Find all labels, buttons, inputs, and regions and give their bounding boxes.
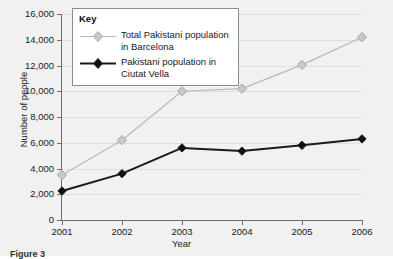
data-point — [298, 141, 306, 149]
legend-swatch-dark-diamond — [79, 56, 117, 69]
data-point — [238, 147, 246, 155]
legend-label-line2: in Barcelona — [121, 41, 174, 52]
figure-caption-label: Figure 3 — [10, 249, 45, 259]
figure-caption: Figure 3 — [10, 249, 45, 259]
legend-key-box: Key Total Pakistani population in Barcel… — [72, 8, 239, 86]
legend-label-line1: Pakistani population in — [121, 56, 216, 67]
data-point — [357, 33, 366, 42]
data-point — [358, 135, 366, 143]
legend-item-ciutat-vella: Pakistani population in Ciutat Vella — [79, 56, 232, 79]
legend-title: Key — [79, 14, 232, 24]
x-axis-title: Year — [172, 238, 191, 249]
legend-label-line1: Total Pakistani population — [121, 29, 229, 40]
data-point — [178, 144, 186, 152]
data-point — [57, 170, 66, 179]
legend-label-ciutat-vella: Pakistani population in Ciutat Vella — [121, 56, 216, 79]
line-chart: 16,000 14,000 12,000 10,000 8,000 6,000 … — [0, 0, 393, 236]
data-point — [58, 187, 66, 195]
legend-label-line2: Ciutat Vella — [121, 68, 169, 79]
data-point — [297, 60, 306, 69]
line-series-ciutat-vella — [62, 139, 362, 191]
legend-swatch-light-diamond — [79, 29, 117, 42]
legend-item-total-barcelona: Total Pakistani population in Barcelona — [79, 29, 232, 52]
legend-label-total-barcelona: Total Pakistani population in Barcelona — [121, 29, 229, 52]
data-point — [118, 169, 126, 177]
